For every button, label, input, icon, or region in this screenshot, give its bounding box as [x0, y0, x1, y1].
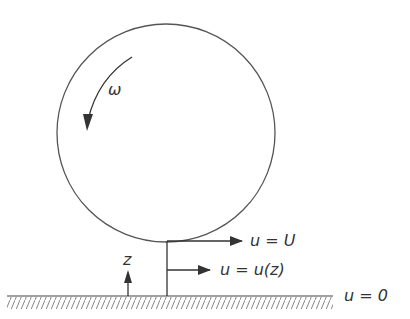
cylinder — [57, 24, 275, 242]
velocity-top-label: u = U — [250, 233, 295, 249]
velocity-profile-label: u = u(z) — [220, 262, 285, 278]
diagram-canvas — [0, 0, 410, 319]
ground-hatching — [7, 297, 333, 309]
ground-label: u = 0 — [344, 288, 388, 304]
z-axis-label: z — [123, 252, 131, 268]
rotation-label: ω — [108, 82, 121, 98]
